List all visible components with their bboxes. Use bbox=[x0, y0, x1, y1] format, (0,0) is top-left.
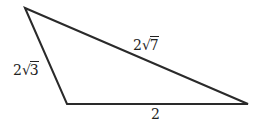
base-value: 2 bbox=[151, 106, 160, 122]
left-side-coefficient: 2 bbox=[13, 62, 22, 78]
triangle-diagram bbox=[0, 0, 261, 123]
left-side-radicand: 3 bbox=[30, 61, 39, 77]
triangle-shape bbox=[25, 8, 248, 104]
base-label: 2 bbox=[151, 107, 160, 121]
hypotenuse-coefficient: 2 bbox=[133, 37, 142, 53]
hypotenuse-label: 2√7 bbox=[133, 36, 159, 52]
left-side-label: 2√3 bbox=[13, 61, 39, 77]
hypotenuse-radicand: 7 bbox=[150, 36, 159, 52]
